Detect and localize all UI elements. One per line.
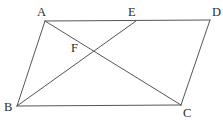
- geometry-canvas: [0, 0, 223, 123]
- side-DC: [181, 20, 210, 105]
- vertex-label-B: B: [4, 101, 12, 114]
- diagonal-AC: [45, 21, 181, 105]
- interior-segments: [17, 21, 181, 106]
- vertex-label-E: E: [128, 6, 136, 19]
- side-AD: [45, 20, 210, 21]
- vertex-label-A: A: [37, 6, 46, 19]
- geometry-figure: A E D F B C: [0, 0, 223, 123]
- side-BA: [17, 21, 45, 106]
- vertex-label-C: C: [183, 107, 191, 120]
- segment-BE: [17, 21, 136, 106]
- vertex-label-F: F: [71, 42, 78, 55]
- side-CB: [17, 105, 181, 106]
- vertex-label-D: D: [212, 6, 221, 19]
